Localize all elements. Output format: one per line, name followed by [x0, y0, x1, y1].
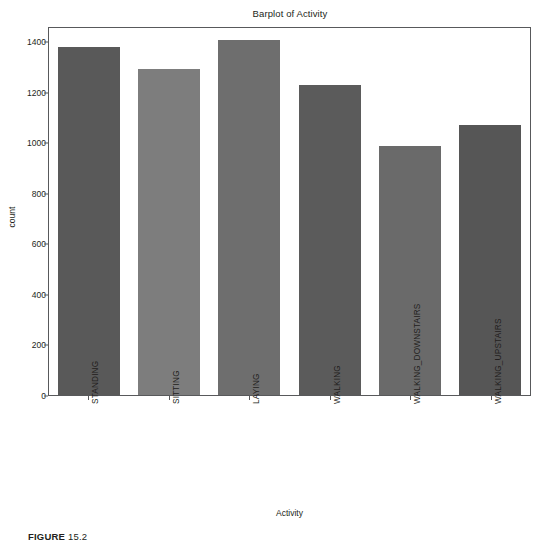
bar-walking_downstairs[interactable] [379, 146, 441, 395]
x-tick-mark [169, 396, 170, 400]
figure-caption-label: FIGURE [28, 531, 65, 542]
bar-group [49, 28, 530, 395]
x-tick-mark [410, 396, 411, 400]
bar-walking[interactable] [299, 85, 361, 395]
x-tick-mark [249, 396, 250, 400]
plot-frame [48, 27, 531, 396]
figure-container: Barplot of Activity count 02004006008001… [0, 0, 540, 520]
x-tick-mark [88, 396, 89, 400]
figure-caption-number: 15.2 [68, 531, 87, 542]
bar-standing[interactable] [58, 47, 120, 395]
x-tick-label-standing: STANDING [91, 361, 100, 404]
x-axis-label: Activity [48, 508, 531, 518]
y-tick-label: 1000 [0, 138, 46, 148]
y-tick-label: 0 [0, 391, 46, 401]
bar-slot [49, 28, 129, 395]
x-tick-label-laying: LAYING [252, 373, 261, 404]
y-tick-label: 400 [0, 290, 46, 300]
chart-title: Barplot of Activity [48, 8, 532, 19]
x-tick-label-walking_downstairs: WALKING_DOWNSTAIRS [413, 304, 422, 405]
y-axis-label: count [7, 197, 17, 237]
bar-slot [450, 28, 530, 395]
y-tick-label: 200 [0, 340, 46, 350]
x-tick-mark [491, 396, 492, 400]
plot-area [49, 28, 530, 395]
y-tick-label: 1400 [0, 37, 46, 47]
bar-slot [370, 28, 450, 395]
bar-slot [290, 28, 370, 395]
x-tick-label-walking: WALKING [333, 365, 342, 404]
bar-slot [129, 28, 209, 395]
figure-caption: FIGURE 15.2 [28, 531, 87, 542]
x-tick-mark [330, 396, 331, 400]
x-tick-label-walking_upstairs: WALKING_UPSTAIRS [494, 318, 503, 404]
y-tick-label: 1200 [0, 88, 46, 98]
bar-sitting[interactable] [138, 69, 200, 395]
bar-walking_upstairs[interactable] [459, 125, 521, 395]
y-tick-label: 800 [0, 189, 46, 199]
bar-laying[interactable] [218, 40, 280, 395]
bar-slot [209, 28, 289, 395]
x-tick-label-sitting: SITTING [172, 370, 181, 404]
y-tick-label: 600 [0, 239, 46, 249]
